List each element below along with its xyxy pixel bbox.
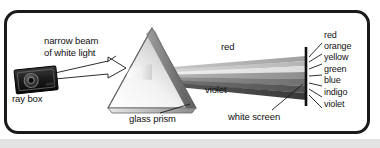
leader-indigo — [309, 89, 322, 97]
ray-box — [14, 66, 58, 94]
leader-violet — [309, 95, 322, 108]
leader-yellow — [309, 64, 322, 69]
prism-dispersion-figure: narrow beam of white light ray box glass… — [0, 0, 380, 148]
white-light-beam — [55, 57, 126, 79]
label-red-beam: red — [221, 42, 234, 53]
label-color-red: red — [324, 30, 337, 40]
label-color-green: green — [324, 64, 347, 74]
leader-blue — [309, 83, 322, 86]
label-color-yellow: yellow — [324, 52, 348, 62]
label-glass-prism: glass prism — [129, 114, 176, 125]
label-color-orange: orange — [324, 41, 351, 51]
label-color-indigo: indigo — [324, 87, 347, 97]
diagram-canvas — [0, 0, 380, 148]
leader-green — [309, 75, 322, 76]
label-violet-beam: violet — [205, 85, 227, 96]
label-narrow-beam-line2: of white light — [44, 48, 95, 59]
label-white-screen: white screen — [228, 112, 280, 123]
label-color-violet: violet — [324, 99, 344, 109]
label-ray-box: ray box — [12, 94, 42, 105]
label-color-blue: blue — [324, 75, 341, 85]
label-narrow-beam-line1: narrow beam — [44, 36, 98, 47]
